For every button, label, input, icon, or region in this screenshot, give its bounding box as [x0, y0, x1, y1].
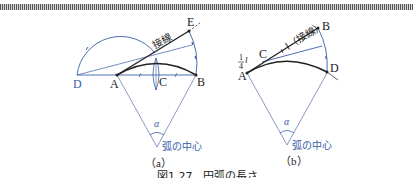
- center-label-a: 弧の中心: [162, 140, 202, 152]
- radius-b-right: [287, 73, 327, 145]
- label-b: B: [197, 75, 205, 89]
- quarter-variable: l: [245, 55, 248, 65]
- label-a: A: [238, 69, 247, 83]
- radius-a-left: [117, 75, 157, 147]
- arrow-mark: [86, 47, 88, 50]
- angle-label-b: α: [284, 116, 290, 127]
- line-d-to-arc: [77, 45, 192, 75]
- quarter-denominator: 4: [239, 62, 243, 71]
- label-c: C: [159, 75, 167, 89]
- label-a: A: [110, 77, 119, 91]
- point-d: [326, 71, 329, 74]
- figure-caption: 図1.27 円弧の長さ: [157, 169, 259, 178]
- angle-label-a: α: [154, 118, 160, 129]
- label-d: D: [73, 77, 82, 91]
- semicircle-from-d: [77, 37, 155, 75]
- label-d: D: [330, 61, 339, 75]
- arc-b-to-d: [318, 28, 327, 72]
- arc-ad: [247, 61, 327, 73]
- center-label-b: 弧の中心: [292, 139, 332, 151]
- angle-arc-a: [150, 133, 164, 136]
- sublabel-b: （b）: [280, 155, 308, 167]
- point-e: [188, 30, 191, 33]
- panel-b: A C B D 1 4 l l（接線） α 弧の中心 （b）: [238, 19, 339, 167]
- arc-length-diagram: D A C B E 接線 α 弧の中心 （a） A C B D 1: [0, 0, 413, 178]
- arc-b-to-e: [189, 31, 197, 75]
- radius-b-left: [247, 73, 287, 145]
- arc-ab: [117, 64, 196, 76]
- arrow-mark: [195, 56, 196, 59]
- arrow-mark: [192, 42, 193, 45]
- angle-arc-b: [280, 131, 294, 134]
- panel-a: D A C B E 接線 α 弧の中心 （a）: [73, 15, 205, 169]
- label-c: C: [259, 47, 267, 61]
- sublabel-a: （a）: [145, 157, 172, 169]
- quarter-numerator: 1: [239, 53, 243, 62]
- label-e: E: [187, 15, 194, 29]
